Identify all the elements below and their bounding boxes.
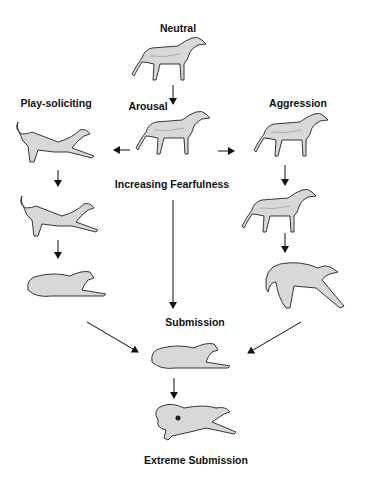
dog-aggression-2: [242, 189, 316, 232]
label-submission: Submission: [165, 316, 225, 328]
dog-play-1: [17, 122, 94, 162]
label-play-soliciting: Play-soliciting: [20, 97, 91, 109]
dog-extreme-submission: [156, 404, 236, 440]
dog-play-2: [21, 196, 98, 236]
label-aggression: Aggression: [269, 97, 327, 109]
label-extreme-submission: Extreme Submission: [144, 454, 248, 466]
dog-play-3: [28, 272, 106, 297]
label-arousal: Arousal: [128, 100, 167, 112]
dog-arousal: [136, 111, 210, 154]
label-increasing-fearfulness: Increasing Fearfulness: [115, 178, 229, 190]
dog-neutral: [132, 37, 206, 80]
dog-aggression-1: [254, 113, 328, 156]
dog-aggression-3: [266, 263, 344, 308]
dog-submission: [152, 344, 230, 369]
dogs-layer: [0, 0, 374, 488]
behavior-diagram: Neutral Arousal Play-soliciting Aggressi…: [0, 0, 374, 488]
label-neutral: Neutral: [160, 22, 196, 34]
